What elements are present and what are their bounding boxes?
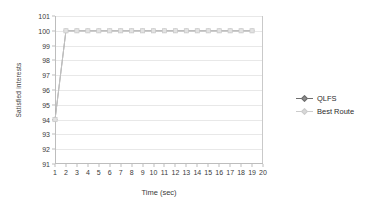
data-point-marker xyxy=(140,29,144,33)
y-axis-title: Satisfied interests xyxy=(15,62,22,117)
chart-container: 919293949596979899100101 123456789101112… xyxy=(0,0,373,208)
x-tick-label: 15 xyxy=(204,169,212,176)
data-point-marker xyxy=(108,29,112,33)
data-point-marker xyxy=(119,29,123,33)
data-point-marker xyxy=(217,29,221,33)
legend-label: Best Route xyxy=(317,108,354,116)
x-tick-mark xyxy=(263,164,264,167)
x-tick-label: 16 xyxy=(215,169,223,176)
x-tick-mark xyxy=(186,164,187,167)
x-tick-label: 19 xyxy=(248,169,256,176)
x-tick-mark xyxy=(208,164,209,167)
plot-area: 919293949596979899100101 123456789101112… xyxy=(55,16,263,164)
data-point-marker xyxy=(184,29,188,33)
x-tick-label: 14 xyxy=(193,169,201,176)
y-tick-label: 99 xyxy=(42,42,50,49)
x-tick-mark xyxy=(120,164,121,167)
x-tick-label: 20 xyxy=(259,169,267,176)
x-tick-label: 10 xyxy=(150,169,158,176)
data-point-marker xyxy=(195,29,199,33)
data-point-marker xyxy=(228,29,232,33)
x-tick-mark xyxy=(109,164,110,167)
x-tick-label: 13 xyxy=(182,169,190,176)
x-tick-mark xyxy=(230,164,231,167)
x-tick-label: 1 xyxy=(53,169,57,176)
data-point-marker xyxy=(64,29,68,33)
data-point-marker xyxy=(250,29,254,33)
x-tick-mark xyxy=(55,164,56,167)
chart-legend: QLFSBest Route xyxy=(296,92,370,118)
y-tick-label: 94 xyxy=(42,116,50,123)
legend-label: QLFS xyxy=(317,95,337,103)
x-tick-mark xyxy=(65,164,66,167)
x-tick-label: 3 xyxy=(75,169,79,176)
x-tick-mark xyxy=(131,164,132,167)
data-point-marker xyxy=(53,118,57,122)
x-tick-label: 18 xyxy=(237,169,245,176)
legend-item-qlfs[interactable]: QLFS xyxy=(296,92,370,105)
x-tick-label: 11 xyxy=(161,169,168,176)
y-tick-label: 100 xyxy=(38,27,50,34)
data-point-marker xyxy=(173,29,177,33)
x-tick-mark xyxy=(76,164,77,167)
y-tick-label: 97 xyxy=(42,72,50,79)
x-tick-label: 12 xyxy=(172,169,180,176)
legend-swatch-icon xyxy=(296,107,313,116)
data-point-marker xyxy=(206,29,210,33)
y-tick-label: 91 xyxy=(42,161,50,168)
x-tick-label: 7 xyxy=(119,169,123,176)
data-point-marker xyxy=(86,29,90,33)
y-tick-label: 98 xyxy=(42,57,50,64)
data-point-marker xyxy=(162,29,166,33)
data-point-marker xyxy=(97,29,101,33)
data-point-marker xyxy=(130,29,134,33)
x-tick-mark xyxy=(175,164,176,167)
x-axis-title: Time (sec) xyxy=(141,188,176,197)
x-tick-label: 4 xyxy=(86,169,90,176)
data-point-marker xyxy=(239,29,243,33)
x-tick-mark xyxy=(164,164,165,167)
data-point-marker xyxy=(151,29,155,33)
series-layer xyxy=(55,16,263,164)
legend-item-best-route[interactable]: Best Route xyxy=(296,105,370,118)
data-point-marker xyxy=(75,29,79,33)
legend-swatch-icon xyxy=(296,94,313,103)
y-tick-label: 96 xyxy=(42,87,50,94)
x-tick-mark xyxy=(241,164,242,167)
x-tick-label: 9 xyxy=(141,169,145,176)
x-tick-mark xyxy=(98,164,99,167)
y-tick-label: 101 xyxy=(38,13,50,20)
y-tick-label: 95 xyxy=(42,101,50,108)
y-tick-label: 92 xyxy=(42,146,50,153)
x-tick-label: 17 xyxy=(226,169,234,176)
y-tick-label: 93 xyxy=(42,131,50,138)
series-best-route xyxy=(53,29,254,122)
x-tick-label: 8 xyxy=(130,169,134,176)
x-tick-mark xyxy=(219,164,220,167)
series-line xyxy=(55,31,252,120)
x-tick-mark xyxy=(252,164,253,167)
x-tick-mark xyxy=(197,164,198,167)
x-tick-mark xyxy=(142,164,143,167)
x-tick-label: 2 xyxy=(64,169,68,176)
series-line xyxy=(55,31,252,120)
x-tick-mark xyxy=(87,164,88,167)
x-tick-mark xyxy=(153,164,154,167)
x-tick-label: 6 xyxy=(108,169,112,176)
x-tick-label: 5 xyxy=(97,169,101,176)
series-qlfs xyxy=(53,29,254,122)
